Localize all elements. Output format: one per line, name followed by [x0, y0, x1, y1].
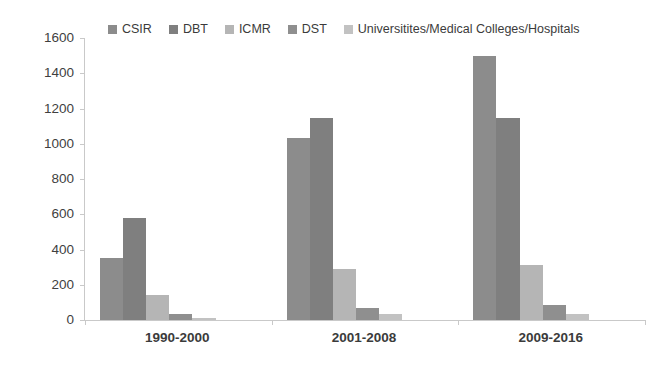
legend-item-csir: CSIR [108, 23, 152, 36]
legend-item-dst: DST [288, 23, 327, 36]
legend-label-universities: Universitites/Medical Colleges/Hospitals [358, 23, 580, 36]
bar [543, 305, 566, 320]
bar [123, 218, 146, 320]
bar [356, 308, 379, 320]
chart-legend: CSIR DBT ICMR DST Universitites/Medical … [108, 20, 579, 38]
y-axis-tick-label: 1400 [6, 66, 74, 80]
legend-label-csir: CSIR [122, 23, 152, 36]
bar [520, 265, 543, 320]
legend-swatch-universities [344, 25, 353, 34]
y-axis-tick-label: 800 [6, 172, 74, 186]
y-axis-tick-label: 1200 [6, 102, 74, 116]
bar [169, 314, 192, 320]
x-axis-labels: 1990-20002001-20082009-2016 [84, 330, 644, 346]
bar-group-inner [100, 38, 216, 320]
bar [100, 258, 123, 320]
x-axis-label-0: 1990-2000 [84, 330, 271, 346]
legend-label-dbt: DBT [183, 23, 208, 36]
x-axis-label-1: 2001-2008 [271, 330, 458, 346]
legend-item-universities: Universitites/Medical Colleges/Hospitals [344, 23, 580, 36]
y-axis-tick-label: 1600 [6, 31, 74, 45]
legend-item-dbt: DBT [169, 23, 208, 36]
bar [566, 314, 589, 320]
bar-group [458, 38, 645, 320]
y-axis-tick-label: 600 [6, 207, 74, 221]
plot-area [84, 38, 645, 321]
bar [287, 138, 310, 320]
y-axis-tick-label: 400 [6, 243, 74, 257]
bar [473, 56, 496, 320]
bar [496, 118, 519, 320]
legend-label-dst: DST [302, 23, 327, 36]
y-axis-tick-label: 1000 [6, 137, 74, 151]
bar [333, 269, 356, 320]
legend-swatch-icmr [225, 25, 234, 34]
bar-group-inner [473, 38, 589, 320]
bar-group [85, 38, 272, 320]
bar [146, 295, 169, 320]
bar [310, 118, 333, 320]
legend-item-icmr: ICMR [225, 23, 271, 36]
y-axis-tick-label: 200 [6, 278, 74, 292]
legend-swatch-dst [288, 25, 297, 34]
bar-group [272, 38, 459, 320]
y-axis-tick-label: 0 [6, 313, 74, 327]
x-axis-tick [85, 320, 86, 325]
bar-chart: CSIR DBT ICMR DST Universitites/Medical … [0, 0, 661, 365]
x-axis-tick [272, 320, 273, 325]
x-axis-tick [645, 320, 646, 325]
bar-group-inner [287, 38, 403, 320]
bar [379, 314, 402, 320]
bar-groups [85, 38, 645, 320]
legend-swatch-dbt [169, 25, 178, 34]
legend-label-icmr: ICMR [239, 23, 271, 36]
x-axis-tick [458, 320, 459, 325]
bar [192, 318, 215, 320]
x-axis-label-2: 2009-2016 [457, 330, 644, 346]
legend-swatch-csir [108, 25, 117, 34]
